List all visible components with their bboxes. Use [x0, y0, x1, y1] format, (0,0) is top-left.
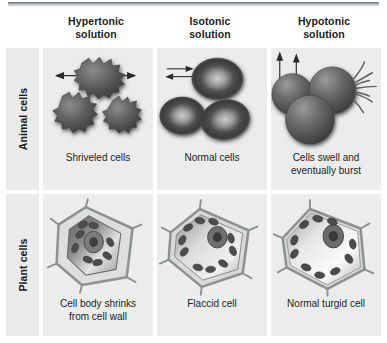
- row-label-plant-cells-text: Plant cells: [17, 238, 29, 291]
- normal-cell: [197, 95, 253, 143]
- row-plant-cells: Plant cells: [6, 194, 381, 336]
- water-arrow-balanced-icon: [167, 67, 192, 79]
- caption-animal-hypertonic-line1: Shriveled cells: [66, 152, 130, 163]
- row-label-plant-cells: Plant cells: [6, 194, 39, 336]
- diagram-grid: Animal cells: [6, 48, 381, 336]
- caption-animal-isotonic: Normal cells: [157, 152, 267, 165]
- illustration-animal-hypotonic: [271, 48, 381, 152]
- column-header-hypotonic-line2: solution: [267, 28, 381, 41]
- caption-plant-hypertonic-line2: from cell wall: [43, 311, 153, 324]
- burst-spray-icon: [353, 62, 376, 113]
- shriveled-cell: [102, 96, 141, 133]
- column-header-hypertonic: Hypertonic solution: [39, 10, 153, 50]
- shriveled-cell: [53, 92, 98, 133]
- osmosis-figure: Hypertonic solution Isotonic solution Hy…: [6, 10, 381, 338]
- column-header-hypotonic-line1: Hypotonic: [298, 15, 350, 27]
- panel-animal-hypertonic: Shriveled cells: [43, 48, 153, 190]
- caption-plant-isotonic-line1: Flaccid cell: [187, 298, 236, 309]
- illustration-plant-isotonic: [157, 194, 267, 298]
- header-corner-spacer: [6, 10, 39, 50]
- panel-plant-hypertonic: Cell body shrinks from cell wall: [43, 194, 153, 336]
- caption-plant-isotonic: Flaccid cell: [157, 298, 267, 311]
- normal-cell: [160, 97, 205, 134]
- caption-animal-hypotonic: Cells swell and eventually burst: [271, 152, 381, 177]
- column-header-hypertonic-line1: Hypertonic: [68, 15, 124, 27]
- caption-animal-hypotonic-line1: Cells swell and: [293, 152, 360, 163]
- swollen-cell: [286, 95, 335, 144]
- caption-animal-hypertonic: Shriveled cells: [43, 152, 153, 165]
- column-header-hypertonic-line2: solution: [39, 28, 153, 41]
- shriveled-cell: [74, 57, 125, 99]
- caption-plant-hypotonic-line1: Normal turgid cell: [287, 298, 365, 309]
- caption-plant-hypertonic: Cell body shrinks from cell wall: [43, 298, 153, 323]
- caption-animal-hypotonic-line2: eventually burst: [271, 165, 381, 178]
- page-edge-line: [8, 2, 379, 5]
- caption-plant-hypertonic-line1: Cell body shrinks: [60, 298, 136, 309]
- caption-animal-isotonic-line1: Normal cells: [184, 152, 239, 163]
- column-header-row: Hypertonic solution Isotonic solution Hy…: [6, 10, 381, 50]
- normal-cell: [192, 58, 243, 99]
- column-header-hypotonic: Hypotonic solution: [267, 10, 381, 50]
- illustration-animal-hypertonic: [43, 48, 153, 152]
- panel-animal-hypotonic: Cells swell and eventually burst: [271, 48, 381, 190]
- column-header-isotonic-line1: Isotonic: [189, 15, 230, 27]
- panel-plant-hypotonic: Normal turgid cell: [271, 194, 381, 336]
- caption-plant-hypotonic: Normal turgid cell: [271, 298, 381, 311]
- column-header-isotonic-line2: solution: [153, 28, 267, 41]
- column-header-isotonic: Isotonic solution: [153, 10, 267, 50]
- illustration-animal-isotonic: [157, 48, 267, 152]
- illustration-plant-hypertonic: [43, 194, 153, 298]
- panel-animal-isotonic: Normal cells: [157, 48, 267, 190]
- illustration-plant-hypotonic: [271, 194, 381, 298]
- row-animal-cells: Animal cells: [6, 48, 381, 190]
- row-label-animal-cells: Animal cells: [6, 48, 39, 190]
- panel-plant-isotonic: Flaccid cell: [157, 194, 267, 336]
- row-label-animal-cells-text: Animal cells: [17, 88, 29, 150]
